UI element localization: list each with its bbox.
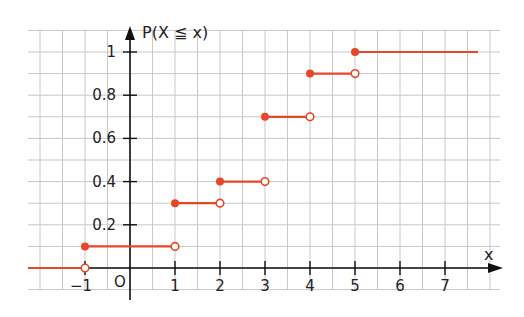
grid <box>28 30 500 290</box>
y-tick-label: 0.6 <box>92 129 116 147</box>
x-axis-arrow-icon <box>488 263 503 273</box>
y-tick-label: 0.2 <box>92 216 116 234</box>
y-axis-label: P(X ≦ x) <box>142 23 208 42</box>
y-tick-label: 1 <box>106 43 116 61</box>
x-tick-label: 7 <box>440 277 450 295</box>
x-tick-label: 1 <box>170 277 180 295</box>
x-tick-label: 5 <box>350 277 360 295</box>
open-endpoint-circle <box>306 113 314 121</box>
open-endpoint-circle <box>351 70 359 78</box>
open-endpoint-circle <box>171 243 179 251</box>
closed-endpoint-dot <box>261 113 269 121</box>
origin-label: O <box>114 273 126 291</box>
y-tick-label: 0.8 <box>92 86 116 104</box>
open-endpoint-circle <box>261 178 269 186</box>
x-tick-label: 6 <box>395 277 405 295</box>
x-tick-label: −1 <box>70 277 92 295</box>
closed-endpoint-dot <box>171 199 179 207</box>
y-axis-arrow-icon <box>125 26 135 40</box>
x-tick-label: 3 <box>260 277 270 295</box>
open-endpoint-circle <box>81 264 89 272</box>
y-tick-label: 0.4 <box>92 173 116 191</box>
x-axis-label: x <box>484 245 493 264</box>
x-tick-label: 2 <box>215 277 225 295</box>
cdf-step-chart: −11234567 0.20.40.60.81 x P(X ≦ x) O <box>0 0 524 317</box>
closed-endpoint-dot <box>306 70 314 78</box>
closed-endpoint-dot <box>216 178 224 186</box>
x-tick-label: 4 <box>305 277 315 295</box>
closed-endpoint-dot <box>81 242 89 250</box>
open-endpoint-circle <box>216 199 224 207</box>
closed-endpoint-dot <box>351 48 359 56</box>
